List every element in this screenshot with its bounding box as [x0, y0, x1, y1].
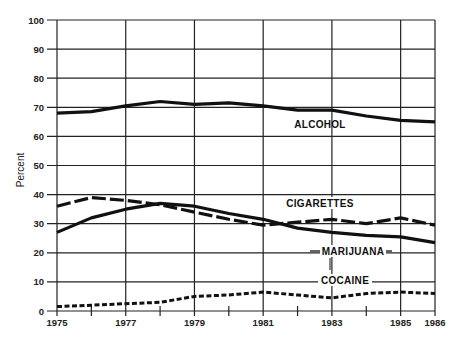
label-cocaine: COCAINE	[321, 275, 369, 286]
y-axis-title: Percent	[15, 153, 26, 188]
label-alcohol: ALCOHOL	[294, 119, 346, 130]
y-tick-label: 0	[39, 306, 44, 317]
y-tick-label: 10	[33, 276, 44, 287]
x-tick-label: 1983	[321, 317, 342, 328]
series-cocaine	[57, 292, 435, 307]
series-alcohol	[57, 102, 435, 122]
x-tick-label: 1975	[46, 317, 68, 328]
y-tick-label: 100	[28, 15, 44, 26]
label-cigarettes: CIGARETTES	[286, 198, 353, 209]
y-tick-label: 20	[33, 247, 44, 258]
y-tick-label: 30	[33, 218, 44, 229]
data-series	[57, 102, 435, 307]
y-tick-label: 50	[33, 160, 44, 171]
line-chart: 0102030405060708090100 19751977197919811…	[0, 0, 461, 345]
y-tick-label: 40	[33, 189, 44, 200]
y-axis-ticks: 0102030405060708090100	[28, 15, 44, 317]
label-marijuana: MARIJUANA	[322, 246, 385, 257]
y-tick-label: 90	[33, 44, 44, 55]
x-tick-label: 1986	[424, 317, 445, 328]
x-tick-label: 1979	[184, 317, 205, 328]
y-tick-label: 80	[33, 73, 44, 84]
y-tick-label: 70	[33, 102, 44, 113]
x-axis-ticks: 1975197719791981198319851986	[46, 306, 445, 328]
grid-lines	[47, 20, 435, 316]
y-tick-label: 60	[33, 131, 44, 142]
x-tick-label: 1985	[390, 317, 412, 328]
x-tick-label: 1977	[115, 317, 136, 328]
x-tick-label: 1981	[253, 317, 275, 328]
